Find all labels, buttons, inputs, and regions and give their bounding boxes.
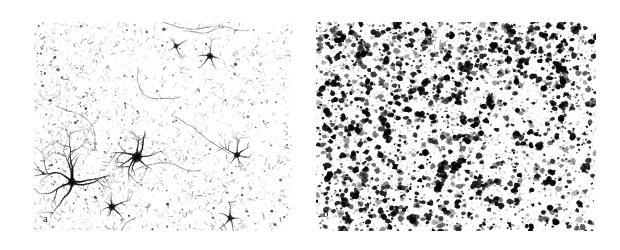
figure-root: a b (0, 0, 620, 250)
panel-a-micrograph (34, 22, 292, 231)
panel-a-label: a (43, 213, 48, 224)
panel-b-micrograph (316, 22, 596, 231)
panel-b-label: b (323, 208, 329, 219)
panel-b: b (316, 22, 596, 231)
panel-a: a (34, 22, 292, 231)
